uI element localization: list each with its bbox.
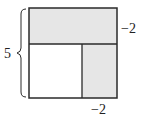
right-top-label: −2	[121, 21, 136, 36]
left-brace	[17, 9, 26, 97]
brace-label: 5	[4, 46, 11, 61]
bottom-right-region	[82, 44, 117, 98]
bottom-left-region	[29, 44, 82, 98]
area-model-diagram: 5 −2 −2	[0, 0, 143, 119]
top-strip-region	[29, 8, 117, 44]
bottom-right-label: −2	[91, 102, 106, 117]
